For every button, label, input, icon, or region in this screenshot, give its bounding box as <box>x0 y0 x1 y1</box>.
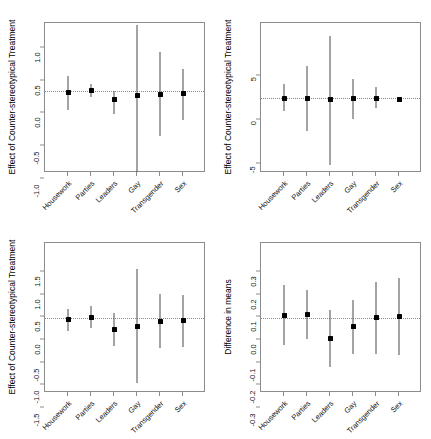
x-axis-tick <box>159 172 160 176</box>
x-axis-tick <box>283 172 284 176</box>
plot-area-bottom-right <box>260 242 421 392</box>
confidence-interval-whisker <box>137 25 138 172</box>
x-axis-tick <box>182 392 183 396</box>
point-estimate-marker <box>397 314 402 319</box>
figure-panel-grid: Effect of Counter-stereotypical Treatmen… <box>0 0 431 439</box>
confidence-interval-whisker <box>114 91 115 114</box>
x-axis-tick <box>306 392 307 396</box>
x-axis-tick <box>352 172 353 176</box>
x-axis-tick <box>398 172 399 176</box>
point-estimate-marker <box>328 97 333 102</box>
panel-bottom-left: Effect of Counter-stereotypical Treatmen… <box>0 220 215 439</box>
point-estimate-marker <box>112 97 117 102</box>
point-estimate-marker <box>89 315 94 320</box>
x-axis-tick <box>329 172 330 176</box>
x-axis-tick <box>352 392 353 396</box>
x-axis-tick <box>136 392 137 396</box>
panel-top-left: Effect of Counter-stereotypical Treatmen… <box>0 0 215 219</box>
plot-inner <box>45 23 204 171</box>
x-axis-tick <box>113 392 114 396</box>
x-axis-tick <box>329 392 330 396</box>
point-estimate-marker <box>282 96 287 101</box>
plot-area-top-left <box>44 22 205 172</box>
point-estimate-marker <box>305 312 310 317</box>
x-axis-tick <box>67 392 68 396</box>
x-axis-tick <box>306 172 307 176</box>
x-axis-tick <box>375 172 376 176</box>
y-axis-title: Difference in means <box>222 242 234 392</box>
point-estimate-marker <box>66 317 71 322</box>
x-axis-tick <box>113 172 114 176</box>
x-axis-tick <box>159 392 160 396</box>
point-estimate-marker <box>181 91 186 96</box>
x-axis-tick <box>90 172 91 176</box>
x-axis-tick <box>283 392 284 396</box>
y-axis-title: Effect of Counter-stereotypical Treatmen… <box>222 22 234 172</box>
point-estimate-marker <box>158 319 163 324</box>
panel-bottom-right: Difference in means 0.30.20.10.0-0.1-0.2… <box>216 220 431 439</box>
point-estimate-marker <box>181 318 186 323</box>
point-estimate-marker <box>351 96 356 101</box>
x-axis-tick <box>375 392 376 396</box>
plot-inner <box>261 243 420 391</box>
plot-area-top-right <box>260 22 421 172</box>
x-axis-tick <box>67 172 68 176</box>
y-axis-title: Effect of Counter-stereotypical Treatmen… <box>6 22 18 172</box>
y-axis-tick <box>256 407 260 408</box>
point-estimate-marker <box>397 97 402 102</box>
point-estimate-marker <box>158 92 163 97</box>
panel-top-right: Effect of Counter-stereotypical Treatmen… <box>216 0 431 219</box>
x-axis-tick <box>182 172 183 176</box>
point-estimate-marker <box>374 315 379 320</box>
x-axis-tick <box>398 392 399 396</box>
y-axis-tick <box>40 177 44 178</box>
y-axis-title: Effect of Counter-stereotypical Treatmen… <box>6 242 18 392</box>
plot-inner <box>45 243 204 391</box>
x-axis-tick <box>90 392 91 396</box>
plot-inner <box>261 23 420 171</box>
point-estimate-marker <box>328 336 333 341</box>
point-estimate-marker <box>351 324 356 329</box>
point-estimate-marker <box>135 324 140 329</box>
point-estimate-marker <box>89 88 94 93</box>
point-estimate-marker <box>305 96 310 101</box>
x-axis-tick <box>136 172 137 176</box>
plot-area-bottom-left <box>44 242 205 392</box>
point-estimate-marker <box>66 90 71 95</box>
point-estimate-marker <box>282 313 287 318</box>
point-estimate-marker <box>374 96 379 101</box>
point-estimate-marker <box>135 93 140 98</box>
point-estimate-marker <box>112 327 117 332</box>
y-axis-tick <box>40 407 44 408</box>
